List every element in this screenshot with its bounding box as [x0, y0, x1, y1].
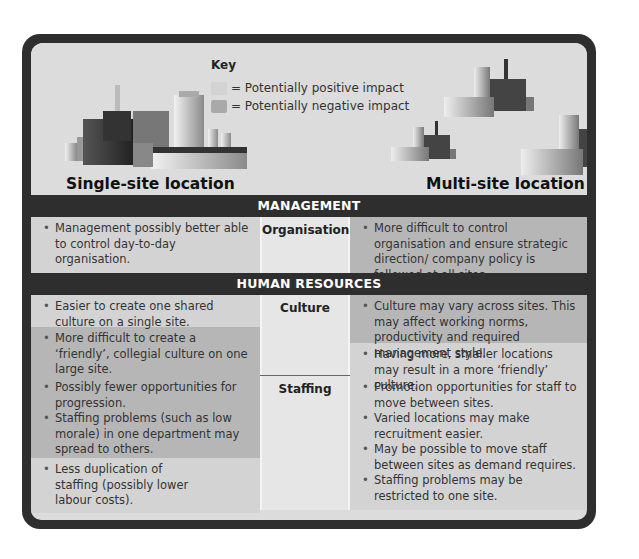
staffing-single-point-1: Possibly fewer opportunities for progres… — [55, 380, 252, 411]
key-title: Key — [211, 58, 236, 72]
multi-site-heading: Multi-site location — [426, 175, 585, 193]
key-positive-label: = Potentially positive impact — [231, 81, 404, 95]
staffing-multi-point-3: May be possible to move staff between si… — [374, 442, 579, 473]
row-organisation: Management possibly better able to contr… — [31, 217, 587, 273]
single-site-heading: Single-site location — [66, 175, 235, 193]
organisation-single-cell: Management possibly better able to contr… — [31, 217, 260, 273]
category-staffing: Staffing — [260, 376, 350, 510]
comparison-frame: Key = Potentially positive impact = Pote… — [22, 34, 596, 529]
staffing-single-cell: Possibly fewer opportunities for progres… — [31, 376, 260, 510]
section-header-management: MANAGEMENT — [31, 195, 587, 217]
category-culture: Culture — [260, 295, 350, 375]
comparison-table: Key = Potentially positive impact = Pote… — [31, 43, 587, 520]
staffing-multi-point-2: Varied locations may make recruitment ea… — [374, 411, 579, 442]
category-organisation: Organisation — [260, 217, 350, 273]
multi-factory-icon-small — [391, 121, 457, 163]
staffing-multi-cell: Promotion opportunities for staff to mov… — [350, 376, 587, 510]
staffing-multi-point-4: Staffing problems may be restricted to o… — [374, 473, 579, 504]
culture-multi-cell: Culture may vary across sites. This may … — [350, 295, 587, 375]
staffing-multi-point-1: Promotion opportunities for staff to mov… — [374, 380, 579, 411]
organisation-multi-point-1: More difficult to control organisation a… — [374, 221, 579, 283]
hero-area: Key = Potentially positive impact = Pote… — [31, 43, 587, 195]
culture-single-point-1: Easier to create one shared culture on a… — [55, 299, 252, 330]
staffing-single-point-3: Less duplication of staffing (possibly l… — [55, 462, 200, 509]
row-culture: Easier to create one shared culture on a… — [31, 295, 587, 375]
row-staffing: Possibly fewer opportunities for progres… — [31, 376, 587, 510]
staffing-single-point-2: Staffing problems (such as low morale) i… — [55, 411, 252, 458]
key-negative-label: = Potentially negative impact — [231, 99, 409, 113]
multi-factory-icon-large — [521, 107, 587, 175]
single-factory-icon — [63, 81, 249, 169]
organisation-single-point-1: Management possibly better able to contr… — [55, 221, 252, 268]
culture-single-cell: Easier to create one shared culture on a… — [31, 295, 260, 375]
organisation-multi-cell: More difficult to control organisation a… — [350, 217, 587, 273]
culture-single-point-2: More difficult to create a ‘friendly’, c… — [55, 331, 252, 378]
